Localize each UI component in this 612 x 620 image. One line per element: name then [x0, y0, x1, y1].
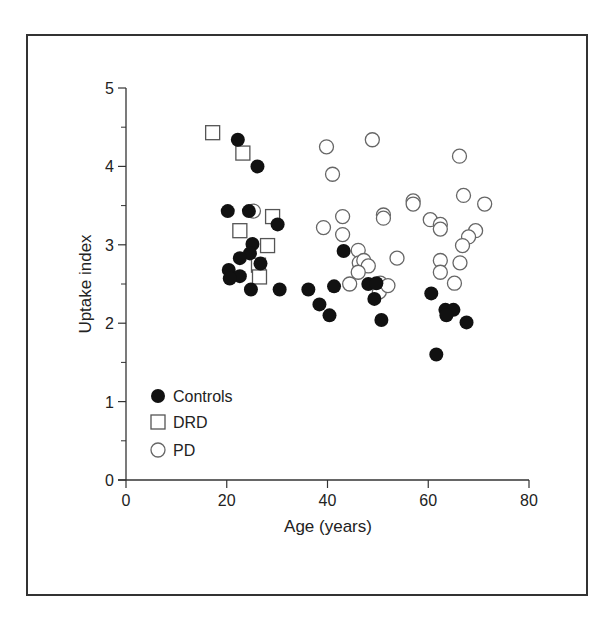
- pd-point: [457, 188, 471, 202]
- pd-point: [390, 251, 404, 265]
- legend-item-controls: Controls: [151, 388, 233, 405]
- pd-point: [365, 133, 379, 147]
- legend-label-drd: DRD: [173, 414, 208, 431]
- data-points: [206, 126, 492, 362]
- legend-label-controls: Controls: [173, 388, 233, 405]
- x-tick-label: 60: [419, 492, 437, 509]
- y-tick-label: 3: [105, 237, 114, 254]
- pd-point: [433, 265, 447, 279]
- x-tick-label: 20: [218, 492, 236, 509]
- legend-item-pd: PD: [151, 442, 195, 459]
- controls-point: [233, 251, 247, 265]
- open-square-marker-icon: [151, 415, 165, 429]
- controls-point: [327, 279, 341, 293]
- controls-point: [271, 217, 285, 231]
- pd-point: [336, 210, 350, 224]
- pd-point: [447, 276, 461, 290]
- pd-point: [406, 197, 420, 211]
- controls-point: [273, 282, 287, 296]
- y-tick-label: 5: [105, 80, 114, 97]
- controls-point: [312, 297, 326, 311]
- legend-item-drd: DRD: [151, 414, 208, 431]
- pd-point: [351, 265, 365, 279]
- pd-point: [478, 197, 492, 211]
- legend-label-pd: PD: [173, 442, 195, 459]
- filled-circle-marker-icon: [151, 389, 165, 403]
- controls-point: [439, 308, 453, 322]
- pd-point: [376, 211, 390, 225]
- controls-point: [223, 272, 237, 286]
- controls-point: [337, 244, 351, 258]
- drd-point: [206, 126, 220, 140]
- scatter-chart: 012345020406080 Controls DRD PD Age (yea…: [0, 0, 612, 620]
- pd-point: [319, 140, 333, 154]
- drd-point: [252, 270, 266, 284]
- pd-point: [336, 228, 350, 242]
- pd-point: [381, 279, 395, 293]
- controls-point: [323, 308, 337, 322]
- pd-point: [433, 222, 447, 236]
- x-tick-label: 40: [319, 492, 337, 509]
- controls-point: [231, 133, 245, 147]
- open-circle-marker-icon: [151, 443, 165, 457]
- legend: Controls DRD PD: [151, 388, 233, 459]
- x-tick-label: 0: [122, 492, 131, 509]
- x-axis-title: Age (years): [284, 517, 372, 536]
- drd-point: [233, 224, 247, 238]
- y-tick-label: 4: [105, 158, 114, 175]
- controls-point: [242, 204, 256, 218]
- y-tick-label: 1: [105, 394, 114, 411]
- y-axis-title: Uptake index: [76, 234, 95, 334]
- x-tick-label: 80: [520, 492, 538, 509]
- controls-point: [369, 276, 383, 290]
- pd-point: [316, 221, 330, 235]
- pd-point: [343, 277, 357, 291]
- controls-point: [374, 313, 388, 327]
- pd-point: [456, 239, 470, 253]
- pd-point: [453, 256, 467, 270]
- controls-point: [424, 286, 438, 300]
- controls-point: [250, 159, 264, 173]
- controls-point: [367, 292, 381, 306]
- controls-point: [244, 282, 258, 296]
- controls-point: [221, 204, 235, 218]
- controls-point: [460, 315, 474, 329]
- y-tick-label: 2: [105, 315, 114, 332]
- controls-point: [254, 257, 268, 271]
- controls-point: [429, 348, 443, 362]
- controls-point: [301, 282, 315, 296]
- drd-point: [236, 146, 250, 160]
- y-tick-label: 0: [105, 472, 114, 489]
- drd-point: [261, 239, 275, 253]
- pd-point: [326, 167, 340, 181]
- pd-point: [452, 149, 466, 163]
